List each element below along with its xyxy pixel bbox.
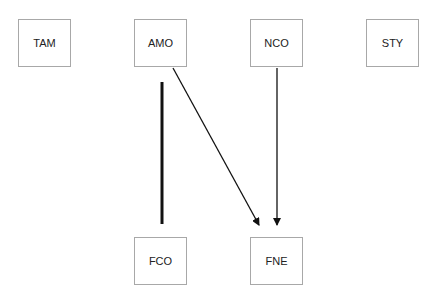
node-amo: AMO — [134, 19, 187, 67]
node-nco: NCO — [250, 19, 303, 67]
node-fne: FNE — [250, 237, 303, 285]
node-fco: FCO — [134, 237, 187, 285]
node-sty: STY — [366, 19, 419, 67]
node-label: FCO — [149, 255, 172, 267]
node-label: NCO — [264, 37, 288, 49]
node-label: AMO — [148, 37, 173, 49]
node-label: TAM — [33, 37, 55, 49]
node-label: STY — [382, 37, 403, 49]
node-label: FNE — [266, 255, 288, 267]
node-tam: TAM — [18, 19, 71, 67]
edge-amo-to-fne — [173, 68, 259, 225]
